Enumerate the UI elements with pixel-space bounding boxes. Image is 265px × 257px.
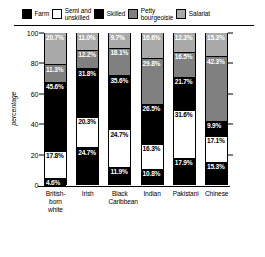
bar-segment[interactable]: 17.1% — [206, 136, 227, 162]
bar-segment[interactable]: 12.2% — [77, 50, 98, 69]
legend-swatch-icon — [94, 9, 104, 19]
bar-group[interactable]: 20.7%11.3%45.6%17.8%4.6% — [44, 33, 67, 185]
bar-segment-value-label: 20.7% — [45, 33, 64, 41]
bar-segment-value-label: 10.8% — [142, 170, 161, 178]
bar-segment-value-label: 11.9% — [109, 168, 127, 176]
bar-group[interactable]: 15.3%42.3%9.9%17.1%15.3% — [205, 33, 228, 185]
plot-area: 100806040200 20.7%11.3%45.6%17.8%4.6%11.… — [44, 33, 228, 185]
bar-segment[interactable]: 31.6% — [174, 110, 195, 158]
bar-segment[interactable]: 20.3% — [77, 117, 98, 148]
bar-stack: 15.3%42.3%9.9%17.1%15.3% — [205, 33, 228, 185]
bar-stack: 16.6%29.8%26.5%16.3%10.8% — [141, 33, 164, 185]
y-axis-tick-label: 60 — [31, 90, 39, 97]
x-axis-tick-label: Pakistani — [173, 190, 196, 220]
bar-segment[interactable]: 21.7% — [174, 77, 195, 110]
bar-segment-value-label: 9.9% — [206, 122, 221, 130]
bar-segment[interactable]: 16.5% — [174, 52, 195, 77]
bar-segment-value-label: 24.7% — [109, 130, 128, 138]
y-axis-tick-label: 40 — [31, 121, 39, 128]
bar-segment[interactable]: 12.3% — [174, 33, 195, 52]
bar-segment-value-label: 24.7% — [77, 148, 96, 156]
bar-segment[interactable]: 9.9% — [206, 121, 227, 136]
bar-segment-value-label: 11.3% — [45, 65, 63, 73]
legend-item: Semi and unskilled — [52, 7, 91, 21]
right-axis-tick-mark — [228, 33, 233, 34]
y-axis-tick-label: 20 — [31, 151, 39, 158]
legend-item: Skilled — [94, 9, 125, 19]
x-axis-tick-label: Indian — [141, 190, 164, 220]
x-axis-tick-label: British- born white — [44, 190, 67, 220]
x-axis-labels: British- born whiteIrishBlack CaribbeanI… — [44, 190, 228, 220]
bar-segment[interactable]: 16.6% — [142, 33, 163, 58]
right-axis-tick-mark — [228, 154, 233, 155]
legend-item-label: Salariat — [189, 10, 210, 17]
x-axis-tick-label: Irish — [76, 190, 99, 220]
x-axis-line — [38, 186, 230, 187]
y-axis-tick-label: 100 — [27, 30, 39, 37]
bar-segment[interactable]: 29.8% — [142, 58, 163, 103]
legend-item-label: Skilled — [107, 10, 125, 17]
bar-segment[interactable]: 4.6% — [45, 178, 66, 187]
legend-item-label: Semi and unskilled — [65, 7, 92, 21]
bar-segment[interactable]: 45.6% — [45, 82, 66, 151]
bar-stack: 20.7%11.3%45.6%17.8%4.6% — [44, 33, 67, 185]
bar-segment-value-label: 17.9% — [174, 159, 193, 167]
bar-segment[interactable]: 26.5% — [142, 104, 163, 144]
legend-item-label: Farm — [35, 10, 50, 17]
legend-swatch-icon — [52, 9, 62, 19]
bar-segment[interactable]: 18.1% — [109, 48, 130, 76]
bar-segment-value-label: 16.5% — [174, 53, 193, 61]
bar-segment[interactable]: 9.7% — [109, 33, 130, 48]
bar-group[interactable]: 11.0%12.2%31.8%20.3%24.7% — [76, 33, 99, 185]
bar-segment[interactable]: 10.8% — [142, 169, 163, 185]
bar-segment-value-label: 17.1% — [206, 137, 225, 145]
legend-item: Petty bourgeoisie — [128, 7, 173, 21]
bar-segment[interactable]: 31.8% — [77, 68, 98, 116]
bar-segment-value-label: 35.6% — [109, 76, 128, 84]
y-axis-title: percentage — [10, 79, 17, 139]
bar-segment[interactable]: 24.7% — [77, 147, 98, 185]
bar-segment-value-label: 15.3% — [206, 163, 225, 171]
bar-segment-value-label: 31.6% — [174, 111, 193, 119]
bar-group[interactable]: 16.6%29.8%26.5%16.3%10.8% — [141, 33, 164, 185]
x-axis-tick-label: Chinese — [205, 190, 228, 220]
bar-segment[interactable]: 17.9% — [174, 158, 195, 185]
bar-stack: 9.7%18.1%35.6%24.7%11.9% — [108, 33, 131, 185]
bar-segment-value-label: 20.3% — [77, 118, 96, 126]
bar-segment-value-label: 26.5% — [142, 105, 161, 113]
bar-segment-value-label: 12.2% — [77, 51, 96, 59]
bar-segment[interactable]: 15.3% — [206, 33, 227, 56]
bar-segment-value-label: 42.3% — [206, 57, 225, 65]
bar-segment-value-label: 12.3% — [174, 33, 193, 41]
bar-series-container: 20.7%11.3%45.6%17.8%4.6%11.0%12.2%31.8%2… — [44, 33, 228, 185]
bar-segment[interactable]: 11.9% — [109, 167, 130, 185]
bar-segment-value-label: 18.1% — [109, 49, 128, 57]
legend-divider-rule — [14, 25, 254, 26]
bar-segment-value-label: 9.7% — [109, 33, 124, 41]
legend-swatch-icon — [176, 9, 186, 19]
legend-item-label: Petty bourgeoisie — [141, 7, 174, 21]
bar-segment[interactable]: 24.7% — [109, 129, 130, 167]
chart-legend: FarmSemi and unskilledSkilledPetty bourg… — [22, 3, 254, 24]
bar-segment-value-label: 29.8% — [142, 59, 161, 67]
stacked-bar-chart-figure: FarmSemi and unskilledSkilledPetty bourg… — [0, 0, 265, 257]
bar-segment[interactable]: 35.6% — [109, 75, 130, 129]
bar-segment-value-label: 15.3% — [206, 33, 225, 41]
bar-segment[interactable]: 20.7% — [45, 33, 66, 64]
bar-segment[interactable]: 17.8% — [45, 151, 66, 178]
bar-segment-value-label: 21.7% — [174, 78, 193, 86]
bar-segment-value-label: 45.6% — [45, 83, 64, 91]
bar-group[interactable]: 9.7%18.1%35.6%24.7%11.9% — [108, 33, 131, 185]
legend-swatch-icon — [22, 9, 32, 19]
bar-segment[interactable]: 15.3% — [206, 162, 227, 185]
bar-group[interactable]: 12.3%16.5%21.7%31.6%17.9% — [173, 33, 196, 185]
bar-segment[interactable]: 11.3% — [45, 64, 66, 81]
bar-segment[interactable]: 16.3% — [142, 144, 163, 169]
bar-segment[interactable]: 42.3% — [206, 56, 227, 120]
x-axis-tick-label: Black Caribbean — [108, 190, 131, 220]
bar-segment[interactable]: 11.0% — [77, 33, 98, 50]
bar-segment-value-label: 17.8% — [45, 152, 64, 160]
bar-segment-value-label: 16.3% — [142, 145, 161, 153]
bar-segment-value-label: 4.6% — [45, 179, 60, 187]
y-axis-tick-label: 0 — [35, 182, 39, 189]
